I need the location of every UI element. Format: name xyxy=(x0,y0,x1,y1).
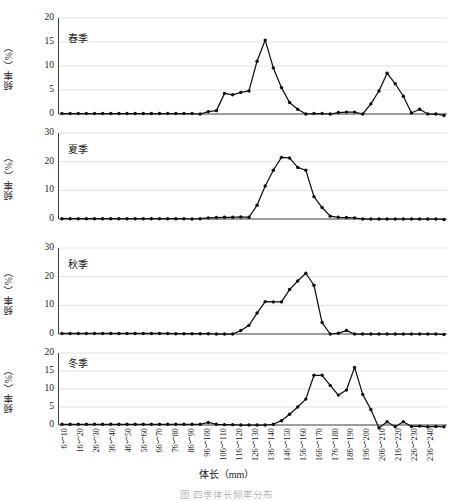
data-point xyxy=(442,114,445,117)
data-point xyxy=(426,332,429,335)
x-tick-label: 106～110 xyxy=(220,428,228,461)
x-tick-label: 56～60 xyxy=(141,428,149,453)
figure-caption: 图 四季体长频率分布 xyxy=(0,487,453,501)
data-point xyxy=(255,60,258,63)
data-point xyxy=(182,112,185,115)
data-point xyxy=(337,111,340,114)
data-point xyxy=(345,110,348,113)
data-point xyxy=(125,217,128,220)
data-point xyxy=(320,321,323,324)
series-line xyxy=(62,157,444,219)
data-point xyxy=(109,112,112,115)
data-point xyxy=(101,423,104,426)
data-point xyxy=(109,217,112,220)
x-tick-label: 236～240 xyxy=(427,428,435,461)
data-point xyxy=(369,102,372,105)
data-point xyxy=(288,288,291,291)
data-point xyxy=(231,423,234,426)
data-point xyxy=(158,112,161,115)
data-point xyxy=(345,388,348,391)
panel-3: 频率（%）0102030秋季 xyxy=(0,248,453,334)
data-point xyxy=(288,156,291,159)
data-point xyxy=(377,217,380,220)
data-point xyxy=(93,112,96,115)
data-point xyxy=(198,423,201,426)
data-point xyxy=(402,217,405,220)
data-point xyxy=(77,423,80,426)
data-point xyxy=(215,109,218,112)
y-tick-label: 30 xyxy=(32,128,54,138)
data-point xyxy=(337,393,340,396)
data-point xyxy=(166,423,169,426)
y-tick-label: 5 xyxy=(32,402,54,412)
y-tick-label: 5 xyxy=(32,85,54,95)
data-point xyxy=(272,66,275,69)
data-point xyxy=(312,374,315,377)
panel-title: 夏季 xyxy=(68,141,88,156)
x-tick-label: 86～90 xyxy=(188,428,196,453)
data-point xyxy=(125,423,128,426)
data-point xyxy=(320,374,323,377)
data-point xyxy=(174,217,177,220)
data-point xyxy=(85,112,88,115)
y-axis-label: 频率（%） xyxy=(2,18,18,114)
x-tick-label: 46～50 xyxy=(125,428,133,453)
data-point xyxy=(247,216,250,219)
data-point xyxy=(385,217,388,220)
data-point xyxy=(190,217,193,220)
data-point xyxy=(385,332,388,335)
data-point xyxy=(288,101,291,104)
data-point xyxy=(434,332,437,335)
data-point xyxy=(85,217,88,220)
y-tick-label: 10 xyxy=(32,61,54,71)
y-axis-label: 频率（%） xyxy=(2,248,18,334)
y-axis-ticks: 0102030 xyxy=(32,248,54,334)
data-point xyxy=(394,82,397,85)
data-point xyxy=(60,112,63,115)
data-point xyxy=(353,110,356,113)
data-point xyxy=(198,112,201,115)
data-point xyxy=(207,110,210,113)
data-point xyxy=(93,423,96,426)
data-point xyxy=(263,423,266,426)
data-point xyxy=(329,332,332,335)
data-point xyxy=(361,332,364,335)
data-point xyxy=(101,112,104,115)
data-point xyxy=(329,214,332,217)
data-point xyxy=(312,195,315,198)
data-point xyxy=(68,332,71,335)
data-point xyxy=(85,332,88,335)
data-point xyxy=(231,216,234,219)
data-point xyxy=(77,217,80,220)
data-point xyxy=(353,216,356,219)
data-point xyxy=(361,393,364,396)
data-point xyxy=(239,215,242,218)
data-point xyxy=(426,217,429,220)
x-tick-label: 36～40 xyxy=(109,428,117,453)
panel-title: 春季 xyxy=(68,30,88,45)
data-point xyxy=(150,423,153,426)
data-point xyxy=(255,423,258,426)
data-point xyxy=(68,423,71,426)
plot-area xyxy=(58,353,446,425)
data-point xyxy=(369,217,372,220)
data-point xyxy=(410,332,413,335)
data-point xyxy=(207,216,210,219)
y-tick-label: 30 xyxy=(32,243,54,253)
x-tick-label: 166～170 xyxy=(316,428,324,461)
data-point xyxy=(215,332,218,335)
x-tick-label: 26～30 xyxy=(93,428,101,453)
data-point xyxy=(223,92,226,95)
data-point xyxy=(93,332,96,335)
data-point xyxy=(207,332,210,335)
data-point xyxy=(442,218,445,221)
data-point xyxy=(174,332,177,335)
data-point xyxy=(304,169,307,172)
plot-area xyxy=(58,18,446,114)
data-point xyxy=(402,95,405,98)
series-line xyxy=(62,273,444,334)
data-point xyxy=(320,112,323,115)
data-point xyxy=(60,423,63,426)
series-line xyxy=(62,367,444,427)
